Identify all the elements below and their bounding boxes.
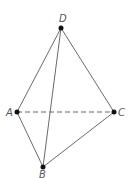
labels-group: DACB	[5, 13, 125, 178]
vertex-b-label: B	[39, 169, 46, 178]
vertex-a-dot	[15, 110, 20, 115]
edge-bc	[43, 112, 114, 167]
vertex-c-dot	[112, 110, 117, 115]
vertex-a-label: A	[5, 107, 13, 118]
edge-ab	[17, 112, 43, 167]
tetrahedron-diagram: DACB	[0, 0, 137, 178]
edge-db	[43, 28, 61, 167]
edges-group	[17, 28, 114, 167]
edge-da	[17, 28, 61, 112]
edge-dc	[61, 28, 114, 112]
vertices-group	[15, 26, 117, 170]
vertex-c-label: C	[118, 107, 125, 118]
vertex-d-label: D	[59, 13, 67, 24]
vertex-d-dot	[59, 26, 64, 31]
